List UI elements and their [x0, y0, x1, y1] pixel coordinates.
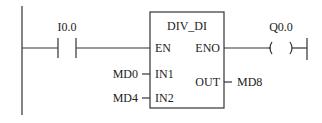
coil-label: Q0.0 [269, 20, 293, 34]
ladder-diagram: I0.0 DIV_DI EN ENO IN1 OUT IN2 MD0 MD4 M… [0, 0, 322, 123]
operand-in1: MD0 [113, 67, 138, 81]
operand-in2: MD4 [113, 91, 138, 105]
operand-out: MD8 [237, 75, 262, 89]
coil-right-arc [290, 42, 292, 54]
pin-out: OUT [195, 75, 220, 89]
coil-q0-0[interactable]: Q0.0 [269, 20, 293, 54]
div-di-block[interactable]: DIV_DI EN ENO IN1 OUT IN2 [150, 12, 224, 108]
block-title: DIV_DI [167, 19, 207, 33]
contact-label: I0.0 [58, 20, 77, 34]
pin-eno: ENO [195, 41, 220, 55]
pin-in1: IN1 [155, 67, 174, 81]
pin-in2: IN2 [155, 91, 174, 105]
pin-en: EN [155, 41, 171, 55]
contact-i0-0[interactable]: I0.0 [58, 20, 77, 58]
